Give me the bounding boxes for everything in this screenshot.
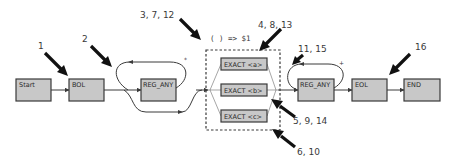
- star-quantifier: *: [184, 56, 187, 63]
- fan-in-a: [267, 64, 276, 90]
- capture-group-label: ( ) => $1: [210, 34, 251, 43]
- node-exact-b: EXACT <b>: [221, 84, 267, 96]
- plus-loop-arrow-head: [299, 62, 304, 66]
- node-start: Start: [16, 79, 51, 101]
- pointer-arrow-4: [266, 29, 281, 44]
- node-end-label: END: [407, 81, 421, 89]
- node-bol-label: BOL: [72, 81, 85, 89]
- node-exact-c-label: EXACT <c>: [224, 113, 262, 121]
- pointer-arrow-1: [45, 53, 62, 70]
- pointer-arrow-16: [395, 54, 410, 69]
- step-label-4: 4, 8, 13: [258, 20, 292, 30]
- node-exact-a-label: EXACT <a>: [224, 61, 262, 69]
- step-label-2: 2: [82, 34, 88, 44]
- node-exact-c: EXACT <c>: [221, 110, 267, 122]
- regex-diagram: * + ( ) => $1 Start BOL REG_ANY EXACT <a…: [0, 0, 453, 166]
- node-bol: BOL: [69, 79, 104, 101]
- fan-a: [210, 64, 221, 90]
- plus-quantifier: +: [339, 59, 344, 66]
- node-eol-label: EOL: [355, 81, 368, 89]
- step-label-3: 3, 7, 12: [140, 10, 174, 20]
- bypass-arrow-head: [178, 110, 183, 114]
- step-label-5: 5, 9, 14: [293, 116, 328, 126]
- node-reg-any-plus: REG_ANY: [298, 79, 334, 101]
- node-exact-a: EXACT <a>: [221, 58, 267, 70]
- pointer-arrow-6: [281, 136, 295, 147]
- loop-arrow-head: [128, 60, 133, 64]
- pointer-arrow-3: [180, 19, 195, 34]
- node-start-label: Start: [19, 81, 35, 89]
- pointer-arrow-2: [91, 46, 106, 61]
- node-reg-any-star: REG_ANY: [141, 79, 176, 101]
- step-label-6: 6, 10: [297, 147, 320, 157]
- node-exact-b-label: EXACT <b>: [224, 87, 263, 95]
- step-label-1: 1: [38, 41, 44, 51]
- node-end: END: [404, 79, 440, 101]
- fan-c: [210, 90, 221, 116]
- step-label-16: 16: [415, 42, 427, 52]
- step-label-11: 11, 15: [298, 44, 327, 54]
- node-eol: EOL: [352, 79, 387, 101]
- node-reg-any-plus-label: REG_ANY: [300, 81, 330, 89]
- node-reg-any-star-label: REG_ANY: [143, 81, 173, 89]
